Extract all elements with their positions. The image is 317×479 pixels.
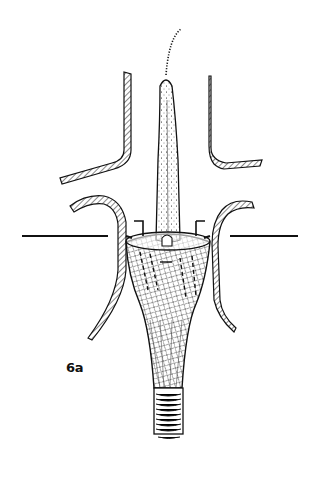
lower-right-wall: [212, 201, 254, 332]
mesh-funnel: [126, 234, 210, 388]
upper-right-wall: [209, 76, 262, 169]
suture-thread: [166, 29, 181, 75]
lower-left-wall: [70, 196, 126, 340]
surgical-illustration: [0, 0, 317, 479]
right-clamp: [196, 221, 205, 236]
figure-label: 6a: [66, 360, 83, 375]
upper-left-wall: [60, 72, 131, 184]
